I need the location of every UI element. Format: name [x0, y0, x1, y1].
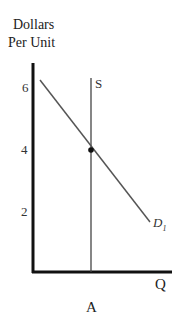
- y-tick-6: 6: [22, 81, 29, 95]
- demand-label: D1: [153, 216, 166, 236]
- demand-curve: [40, 80, 150, 222]
- y-tick-4: 4: [21, 143, 28, 157]
- y-tick-2: 2: [21, 205, 28, 219]
- x-axis-label: Q: [155, 276, 166, 292]
- chart-plot: [0, 0, 181, 329]
- equilibrium-point: [88, 147, 94, 153]
- supply-label: S: [95, 77, 102, 91]
- demand-label-sub: 1: [162, 224, 166, 233]
- demand-label-main: D: [153, 215, 162, 230]
- chart-caption: A: [86, 299, 97, 315]
- supply-demand-chart: Dollars Per Unit 6 4 2 S D1 Q A: [0, 0, 181, 329]
